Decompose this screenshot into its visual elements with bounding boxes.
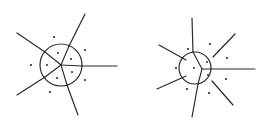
outer-site-point (30, 64, 32, 66)
radial-edge (213, 34, 235, 57)
inner-site-point (46, 64, 48, 66)
inner-cell-edge (45, 52, 61, 65)
radial-edge (212, 81, 233, 105)
radial-edge (159, 45, 186, 60)
inner-site-point (206, 61, 208, 63)
outer-site-point (225, 78, 227, 80)
outer-site-point (208, 92, 210, 94)
inner-site-point (70, 58, 72, 60)
inner-cell-edge (193, 52, 202, 69)
radial-edge (69, 14, 85, 46)
outer-site-point (187, 48, 189, 50)
radial-edge (17, 33, 45, 52)
radial-edge (17, 77, 45, 95)
radial-edge (67, 85, 78, 115)
outer-site-point (84, 79, 86, 81)
inner-cell-edge (61, 46, 69, 65)
inner-site-point (57, 52, 59, 54)
radial-edge (192, 84, 198, 117)
inner-cell-edge (198, 69, 202, 84)
outer-site-point (53, 36, 55, 38)
inner-cell-edge (45, 65, 61, 77)
inner-cell-edge (61, 65, 82, 66)
outer-site-point (84, 49, 86, 51)
radial-edge (157, 76, 186, 89)
outer-site-point (226, 57, 228, 59)
inner-site-point (207, 74, 209, 76)
outer-site-point (209, 43, 211, 45)
right-voronoi-diagram (157, 18, 255, 117)
outer-site-point (186, 88, 188, 90)
inner-site-point (56, 77, 58, 79)
outer-site-point (175, 67, 177, 69)
inner-site-point (71, 71, 73, 73)
inner-cell-edge (61, 65, 67, 85)
left-voronoi-diagram (17, 14, 117, 115)
inner-site-point (193, 67, 195, 69)
outer-site-point (49, 91, 51, 93)
radial-edge (192, 18, 193, 52)
voronoi-figure (0, 0, 267, 128)
